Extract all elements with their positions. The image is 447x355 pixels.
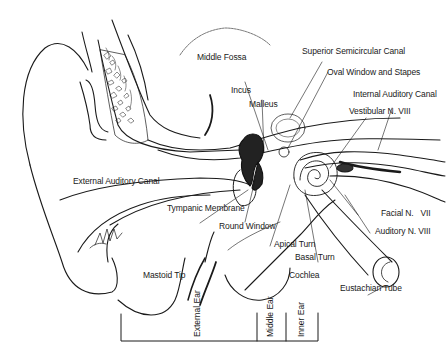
label-eustachian-tube: Eustachian Tube xyxy=(340,284,402,293)
ossicles xyxy=(239,134,263,190)
label-auditory-n-viii: Auditory N. VIII xyxy=(375,227,431,236)
label-mastoid-tip: Mastoid Tip xyxy=(143,271,185,280)
label-tympanic-membrane: Tympanic Membrane xyxy=(167,204,245,213)
label-round-window: Round Window xyxy=(219,222,275,231)
region-external-ear: External Ear xyxy=(193,290,202,337)
region-inner-ear: Inner Ear xyxy=(297,302,306,337)
label-external-auditory-canal: External Auditory Canal xyxy=(73,177,160,186)
label-superior-semicircular-canal: Superior Semicircular Canal xyxy=(302,47,405,56)
region-middle-ear: Middle Ear xyxy=(266,296,275,337)
label-malleus: Malleus xyxy=(249,100,278,109)
label-basal-turn: Basal Turn xyxy=(295,253,335,262)
label-apical-turn: Apical Turn xyxy=(274,240,315,249)
label-cochlea: Cochlea xyxy=(289,271,320,280)
label-oval-window-and-stapes: Oval Window and Stapes xyxy=(327,68,420,77)
label-middle-fossa: Middle Fossa xyxy=(197,53,246,62)
scribble-mark xyxy=(90,229,122,248)
label-incus: Incus xyxy=(231,86,251,95)
label-vestibular-n-viii: Vestibular N. VIII xyxy=(349,107,411,116)
cochlea-spiral xyxy=(294,152,337,195)
label-internal-auditory-canal: Internal Auditory Canal xyxy=(353,90,437,99)
region-bracket xyxy=(121,313,318,341)
label-facial-n-vii: Facial N. VII xyxy=(381,209,431,218)
pinna-outline xyxy=(23,44,88,165)
